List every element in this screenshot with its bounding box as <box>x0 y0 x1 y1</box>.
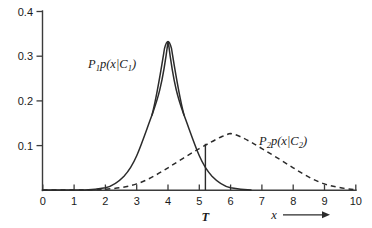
series1-P: P <box>87 57 96 71</box>
threshold-label: T <box>202 210 211 224</box>
series2-P: P <box>258 134 267 148</box>
y-tick-label-0.4: 0.4 <box>18 6 33 18</box>
chart-background <box>0 0 372 228</box>
series1-close: ) <box>131 57 136 71</box>
x-tick-label-2: 2 <box>102 195 108 207</box>
x-tick-label-10: 10 <box>350 195 362 207</box>
x-tick-label-7: 7 <box>259 195 265 207</box>
x-tick-label-3: 3 <box>134 195 140 207</box>
series2-p: p <box>270 134 277 148</box>
series2-close: ) <box>302 134 307 148</box>
x-tick-label-0: 0 <box>40 195 46 207</box>
probability-density-chart: 0.4 0.3 0.2 0.1 0 1 2 3 4 5 6 7 8 9 10 P… <box>0 0 372 228</box>
x-tick-label-8: 8 <box>290 195 296 207</box>
x-tick-label-4: 4 <box>165 195 171 207</box>
y-tick-label-0.1: 0.1 <box>18 140 33 152</box>
y-tick-label-0.3: 0.3 <box>18 50 33 62</box>
x-tick-label-9: 9 <box>321 195 327 207</box>
x-axis-label: x <box>270 208 277 222</box>
y-tick-label-0.2: 0.2 <box>18 95 33 107</box>
x-tick-label-5: 5 <box>196 195 202 207</box>
series1-p: p <box>99 57 106 71</box>
x-tick-label-6: 6 <box>228 195 234 207</box>
chart-svg: 0.4 0.3 0.2 0.1 0 1 2 3 4 5 6 7 8 9 10 P… <box>0 0 372 228</box>
x-tick-label-1: 1 <box>71 195 77 207</box>
